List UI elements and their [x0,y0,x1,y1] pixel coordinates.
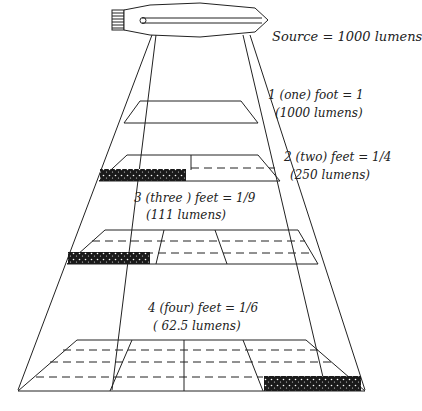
plane-2-lumens-label: (250 lumens) [290,168,370,182]
plane-3-lumens-label: (111 lumens) [146,208,226,222]
plane-1-distance-label: 1 (one) foot = 1 [268,88,364,102]
plane-2-distance-label: 2 (two) feet = 1/4 [284,150,391,164]
plane-4-lumens-label: ( 62.5 lumens) [153,319,241,333]
plane-3-distance-label: 3 (three ) feet = 1/9 [134,191,255,205]
plane-1-lumens-label: (1000 lumens) [275,106,363,120]
light-bulb-icon [112,3,268,37]
source-label: Source = 1000 lumens [272,30,422,44]
plane-4-distance-label: 4 (four) feet = 1/6 [148,301,258,315]
